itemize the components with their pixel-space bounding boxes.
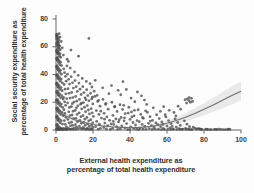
data-point — [87, 109, 90, 112]
data-point — [65, 80, 68, 83]
data-point — [67, 110, 70, 113]
data-point — [85, 88, 88, 91]
data-point — [66, 58, 69, 61]
data-point — [74, 109, 77, 112]
data-point — [105, 102, 108, 105]
data-point — [77, 55, 80, 58]
data-point — [192, 126, 195, 129]
data-point — [74, 95, 77, 98]
data-point — [136, 91, 139, 94]
data-point — [63, 83, 66, 86]
data-point — [61, 106, 64, 109]
data-point — [64, 123, 67, 126]
data-point — [175, 126, 178, 129]
data-point — [59, 48, 62, 51]
data-point — [158, 117, 161, 120]
data-point — [63, 71, 66, 74]
data-point — [124, 112, 127, 115]
data-point — [69, 97, 72, 100]
data-point — [81, 77, 84, 80]
data-point — [88, 99, 91, 102]
data-point — [183, 119, 186, 122]
y-axis-title: Social security expenditure as percentag… — [10, 6, 29, 136]
data-point — [115, 118, 118, 121]
data-point — [137, 108, 140, 111]
data-point — [112, 120, 115, 123]
data-point — [176, 121, 179, 124]
data-point — [149, 120, 152, 123]
data-point — [89, 92, 92, 95]
data-point — [64, 75, 67, 78]
data-point — [149, 115, 152, 118]
x-tick-label: 60 — [156, 136, 178, 143]
data-point — [108, 119, 111, 122]
data-point — [58, 38, 61, 41]
data-point — [60, 103, 63, 106]
data-point — [71, 124, 74, 127]
data-point — [70, 49, 73, 52]
data-point — [61, 123, 64, 126]
data-point — [75, 85, 78, 88]
y-tick-label: 20 — [32, 98, 48, 105]
data-point — [188, 125, 191, 128]
data-point — [92, 115, 95, 118]
data-point — [93, 90, 96, 93]
data-point — [127, 106, 130, 109]
data-point — [66, 65, 69, 68]
data-point — [60, 119, 63, 122]
data-point — [79, 88, 82, 91]
data-point — [78, 98, 81, 101]
data-point — [188, 96, 191, 99]
data-point — [100, 117, 103, 120]
data-point — [82, 114, 85, 117]
data-point — [74, 123, 77, 126]
data-point — [177, 105, 180, 108]
data-point — [191, 100, 194, 103]
data-point — [130, 111, 133, 114]
data-point — [90, 86, 93, 89]
data-point — [70, 91, 73, 94]
data-point — [76, 90, 79, 93]
data-point — [116, 110, 119, 113]
data-point — [121, 108, 124, 111]
data-point — [159, 110, 162, 113]
data-point — [63, 108, 66, 111]
data-point — [74, 79, 77, 82]
data-point — [71, 81, 74, 84]
data-point — [125, 88, 128, 91]
data-point — [88, 125, 91, 128]
data-point — [173, 111, 176, 114]
data-point — [166, 125, 169, 128]
data-point — [68, 121, 71, 124]
data-point — [96, 94, 99, 97]
data-point — [185, 102, 188, 105]
data-point — [60, 73, 63, 76]
data-point — [84, 124, 87, 127]
data-point — [63, 101, 66, 104]
data-point — [119, 93, 122, 96]
data-point — [141, 123, 144, 126]
x-axis-title-line2: percentage of total health expenditure — [24, 165, 238, 174]
data-point — [58, 32, 61, 35]
data-point — [155, 113, 158, 116]
data-point — [139, 113, 142, 116]
data-point — [110, 122, 113, 125]
data-point — [59, 61, 62, 64]
x-tick-label: 40 — [119, 136, 141, 143]
data-point — [71, 102, 74, 105]
data-point — [127, 112, 130, 115]
data-point — [91, 111, 94, 114]
chart-container: Social security expenditure as percentag… — [0, 0, 254, 193]
data-point — [59, 52, 62, 55]
data-point — [99, 110, 102, 113]
data-point — [122, 80, 125, 83]
y-axis-title-line2: percentage of total health expenditure — [19, 6, 28, 136]
data-point — [160, 121, 163, 124]
x-tick-label: 100 — [230, 136, 252, 143]
data-point — [66, 73, 69, 76]
data-point — [91, 103, 94, 106]
x-tick-label: 80 — [193, 136, 215, 143]
data-point — [179, 124, 182, 127]
data-point — [66, 118, 69, 121]
y-tick-label: 40 — [32, 70, 48, 77]
